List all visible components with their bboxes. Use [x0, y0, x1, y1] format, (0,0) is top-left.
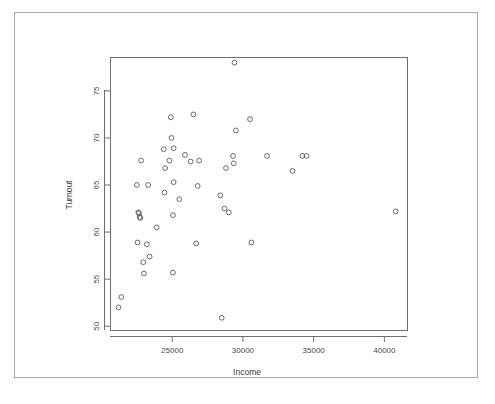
data-point — [167, 158, 172, 163]
data-point — [393, 209, 398, 214]
data-point — [134, 183, 139, 188]
data-points-layer — [116, 60, 398, 320]
plot-panel-border — [111, 58, 408, 331]
data-point — [163, 166, 168, 171]
data-point — [171, 180, 176, 185]
data-point — [116, 305, 121, 310]
data-point — [233, 128, 238, 133]
x-tick-label: 25000 — [161, 346, 184, 355]
data-point — [144, 242, 149, 247]
data-point — [188, 159, 193, 164]
x-tick-label: 40000 — [373, 346, 396, 355]
data-point — [222, 206, 227, 211]
data-point — [154, 225, 159, 230]
data-point — [147, 254, 152, 259]
y-tick-label: 75 — [92, 86, 101, 95]
data-point — [142, 271, 147, 276]
data-point — [224, 166, 229, 171]
x-axis-ticks: 25000300003500040000 — [161, 336, 396, 355]
data-point — [162, 190, 167, 195]
data-point — [290, 169, 295, 174]
data-point — [183, 153, 188, 158]
data-point — [231, 153, 236, 158]
data-point — [232, 60, 237, 65]
data-point — [177, 197, 182, 202]
data-point — [195, 184, 200, 189]
data-point — [231, 161, 236, 166]
y-tick-label: 70 — [92, 133, 101, 142]
data-point — [139, 158, 144, 163]
scatter-plot-figure: 505560657075 25000300003500040000 Income… — [0, 0, 495, 404]
data-point — [194, 241, 199, 246]
x-tick-label: 30000 — [232, 346, 255, 355]
data-point — [161, 147, 166, 152]
data-point — [169, 136, 174, 141]
data-point — [248, 117, 253, 122]
x-axis-label: Income — [233, 367, 261, 377]
data-point — [197, 158, 202, 163]
y-tick-label: 50 — [92, 321, 101, 330]
y-axis-ticks: 505560657075 — [92, 86, 110, 331]
data-point — [119, 295, 124, 300]
data-point — [265, 153, 270, 158]
data-point — [226, 210, 231, 215]
y-axis-label: Turnout — [64, 180, 74, 210]
x-tick-label: 35000 — [303, 346, 326, 355]
data-point — [171, 213, 176, 218]
y-tick-label: 55 — [92, 274, 101, 283]
plot-canvas: 505560657075 25000300003500040000 Income… — [0, 0, 495, 404]
data-point — [168, 115, 173, 120]
data-point — [135, 240, 140, 245]
y-tick-label: 60 — [92, 227, 101, 236]
data-point — [171, 270, 176, 275]
data-point — [146, 183, 151, 188]
data-point — [171, 146, 176, 151]
data-point — [191, 112, 196, 117]
y-tick-label: 65 — [92, 180, 101, 189]
data-point — [219, 315, 224, 320]
data-point — [249, 240, 254, 245]
data-point — [218, 193, 223, 198]
data-point — [141, 260, 146, 265]
